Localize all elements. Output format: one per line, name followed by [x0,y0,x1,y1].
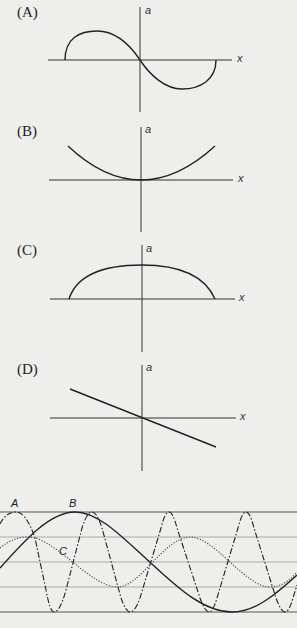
wave-a-label: A [11,497,18,509]
wave-b-label: B [69,497,76,509]
wave-gridlines [0,512,297,612]
diagram-canvas [0,0,297,628]
wave-c-label: C [59,545,67,557]
